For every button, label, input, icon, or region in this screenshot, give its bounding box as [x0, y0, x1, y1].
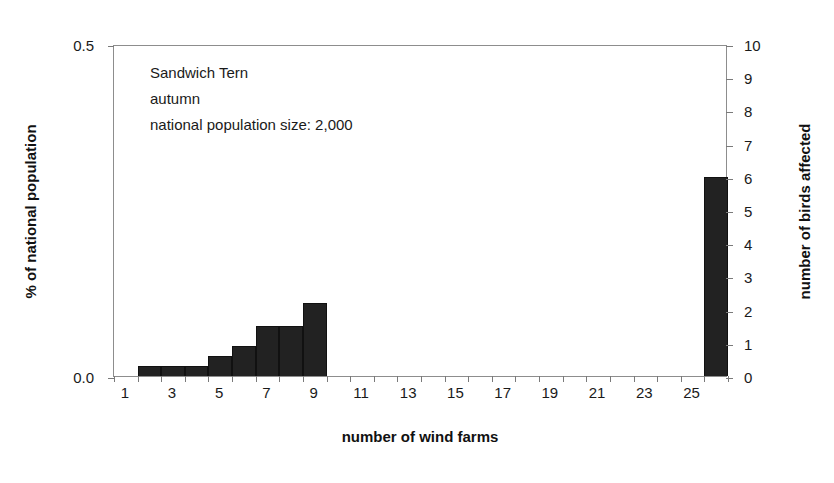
y-right-tick — [726, 378, 733, 379]
x-tick — [634, 376, 635, 382]
x-tick — [704, 376, 705, 382]
y-right-tick — [726, 245, 733, 246]
x-tick — [563, 376, 564, 382]
y-axis-left-title-container: % of national population — [16, 45, 44, 377]
y-left-tick-label: 0.5 — [73, 37, 94, 54]
x-tick — [681, 376, 682, 382]
y-right-tick-label: 7 — [744, 136, 752, 153]
bar — [232, 346, 256, 376]
x-tick — [138, 376, 139, 382]
x-tick-label: 19 — [542, 384, 559, 401]
x-tick — [397, 376, 398, 382]
x-tick — [492, 376, 493, 382]
x-tick-label: 13 — [400, 384, 417, 401]
x-tick-label: 15 — [447, 384, 464, 401]
x-axis-title-container: number of wind farms — [113, 428, 727, 446]
x-tick-label: 23 — [636, 384, 653, 401]
y-right-tick — [726, 278, 733, 279]
y-right-tick — [726, 212, 733, 213]
bar — [138, 366, 162, 376]
x-tick — [303, 376, 304, 382]
annotation-season: autumn — [150, 86, 353, 112]
annotation-population: national population size: 2,000 — [150, 112, 353, 138]
y-right-tick-label: 5 — [744, 203, 752, 220]
x-tick — [208, 376, 209, 382]
y-right-tick — [726, 112, 733, 113]
y-right-tick — [726, 312, 733, 313]
x-tick-label: 3 — [168, 384, 176, 401]
y-right-tick-label: 4 — [744, 236, 752, 253]
bar — [279, 326, 303, 376]
y-right-tick-label: 6 — [744, 169, 752, 186]
y-left-tick — [108, 46, 114, 47]
x-tick — [445, 376, 446, 382]
bar — [161, 366, 185, 376]
y-axis-left-title: % of national population — [22, 124, 39, 298]
y-right-tick — [726, 179, 733, 180]
bar — [704, 177, 728, 376]
x-tick — [232, 376, 233, 382]
bar — [256, 326, 280, 376]
x-tick — [539, 376, 540, 382]
y-right-tick — [726, 345, 733, 346]
x-tick — [327, 376, 328, 382]
x-tick — [161, 376, 162, 382]
x-tick — [515, 376, 516, 382]
bar — [185, 366, 209, 376]
y-right-tick-label: 8 — [744, 103, 752, 120]
x-tick-label: 17 — [494, 384, 511, 401]
y-left-tick-label: 0.0 — [73, 369, 94, 386]
x-tick-label: 1 — [121, 384, 129, 401]
x-tick-label: 25 — [683, 384, 700, 401]
x-tick — [468, 376, 469, 382]
x-tick — [421, 376, 422, 382]
x-tick-label: 9 — [310, 384, 318, 401]
x-tick — [586, 376, 587, 382]
y-right-tick — [726, 79, 733, 80]
y-right-tick-label: 10 — [744, 37, 761, 54]
x-axis-title: number of wind farms — [342, 428, 499, 445]
x-tick — [610, 376, 611, 382]
y-right-tick-label: 2 — [744, 302, 752, 319]
y-left-tick — [108, 378, 114, 379]
bar — [303, 303, 327, 376]
x-tick-label: 11 — [353, 384, 369, 401]
x-tick — [114, 376, 115, 382]
x-tick — [374, 376, 375, 382]
x-tick — [256, 376, 257, 382]
x-tick — [185, 376, 186, 382]
chart-figure: % of national population number of birds… — [0, 0, 834, 483]
y-right-tick — [726, 146, 733, 147]
y-axis-right-title-container: number of birds affected — [790, 45, 820, 377]
y-right-tick-label: 1 — [744, 335, 752, 352]
annotation-species: Sandwich Tern — [150, 60, 353, 86]
x-tick — [350, 376, 351, 382]
y-right-tick-label: 9 — [744, 70, 752, 87]
x-tick-label: 21 — [589, 384, 606, 401]
x-tick-label: 5 — [215, 384, 223, 401]
x-tick — [279, 376, 280, 382]
x-tick-label: 7 — [262, 384, 270, 401]
chart-annotation: Sandwich Tern autumn national population… — [150, 60, 353, 138]
bar — [208, 356, 232, 376]
x-tick — [657, 376, 658, 382]
y-right-tick — [726, 46, 733, 47]
y-axis-right-title: number of birds affected — [797, 123, 814, 299]
x-tick — [728, 376, 729, 382]
y-right-tick-label: 3 — [744, 269, 752, 286]
y-right-tick-label: 0 — [744, 369, 752, 386]
